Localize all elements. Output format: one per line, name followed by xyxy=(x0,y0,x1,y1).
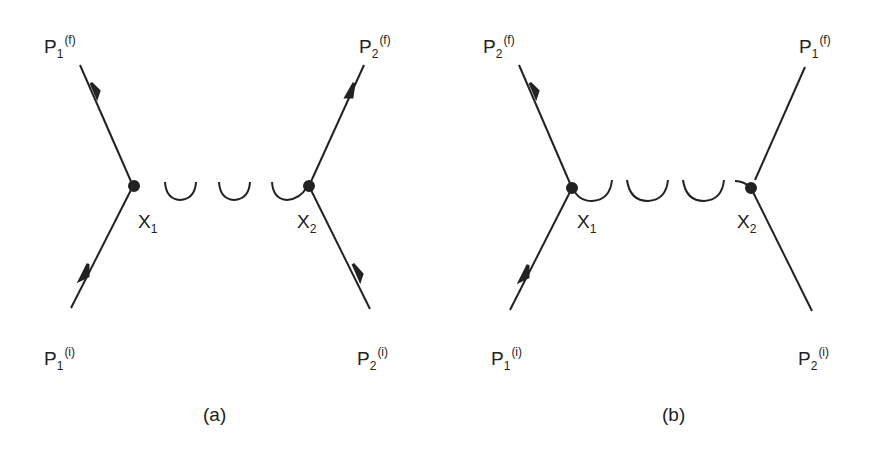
label-a-top-right: P2(f) xyxy=(359,34,391,60)
diagram-b xyxy=(510,65,812,311)
arrow-icon xyxy=(520,265,528,281)
vertex-x1 xyxy=(129,181,139,191)
fermion-line-top-right xyxy=(755,67,805,180)
fermion-line-top-right xyxy=(309,65,364,186)
photon-propagator xyxy=(573,180,612,201)
label-a-top-left: P1(f) xyxy=(44,34,76,60)
fermion-line-bottom-right xyxy=(751,188,812,311)
fermion-line-bottom-left xyxy=(510,188,572,310)
vertex-x1 xyxy=(567,183,577,193)
label-a-vertex-x1: X1 xyxy=(138,212,157,235)
label-b-vertex-x1: X1 xyxy=(577,212,596,235)
diagram-a xyxy=(71,65,370,309)
caption-a: (a) xyxy=(203,404,226,426)
label-a-vertex-x2: X2 xyxy=(297,212,316,235)
label-a-bottom-left: P1(i) xyxy=(44,346,75,372)
label-b-top-left: P2(f) xyxy=(483,34,515,60)
label-a-bottom-right: P2(i) xyxy=(357,346,388,372)
label-b-top-right: P1(f) xyxy=(799,34,831,60)
vertex-x2 xyxy=(746,183,756,193)
fermion-line-top-left xyxy=(519,65,572,188)
fermion-line-bottom-left xyxy=(71,186,133,308)
vertex-x2 xyxy=(304,181,314,191)
label-b-bottom-right: P2(i) xyxy=(798,346,829,372)
fermion-line-bottom-right xyxy=(309,186,370,309)
fermion-line-top-left xyxy=(80,65,133,186)
arrow-icon xyxy=(80,264,88,280)
arrow-icon xyxy=(346,83,354,97)
photon-propagator xyxy=(165,182,196,200)
label-b-bottom-left: P1(i) xyxy=(491,346,522,372)
label-b-vertex-x2: X2 xyxy=(737,212,756,235)
caption-b: (b) xyxy=(662,404,685,426)
